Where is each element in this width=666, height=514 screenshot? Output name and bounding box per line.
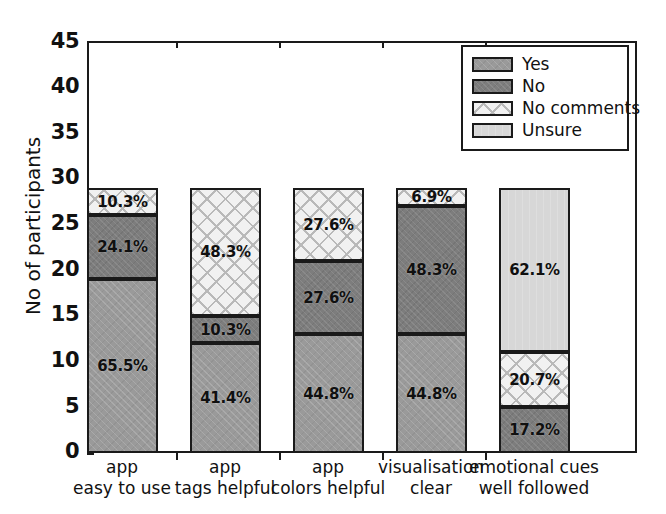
y-tick-label: 25 <box>0 213 79 234</box>
segment-value-label: 10.3% <box>200 321 251 339</box>
bar-segment-yes: 65.5% <box>87 279 158 453</box>
segment-value-label: 27.6% <box>303 216 354 234</box>
bar-segment-yes: 44.8% <box>396 334 467 453</box>
x-tick-mark-top <box>279 41 281 48</box>
x-label-line-1: emotional cues <box>469 457 599 477</box>
x-label-line-1: app <box>312 457 344 477</box>
x-axis-category-label: emotional cues well followed <box>459 457 609 498</box>
y-axis-tick-labels: 45 40 35 30 25 20 15 10 5 0 <box>0 0 87 514</box>
y-tick-label: 5 <box>0 396 79 417</box>
legend-item-yes: Yes <box>472 54 618 75</box>
bar-segment-yes: 44.8% <box>293 334 364 453</box>
bar-segment-no: 48.3% <box>396 206 467 334</box>
legend-swatch-yes-icon <box>472 57 513 72</box>
legend-swatch-unsure-icon <box>472 123 513 138</box>
x-label-line-2: well followed <box>459 478 609 499</box>
segment-value-label: 48.3% <box>406 261 457 279</box>
legend-item-no: No <box>472 76 618 97</box>
bar-segment-no: 17.2% <box>499 407 570 453</box>
bar-segment-no-comments: 20.7% <box>499 352 570 407</box>
x-label-line-1: app <box>106 457 138 477</box>
bar-segment-no-comments: 48.3% <box>190 188 261 316</box>
y-tick-label: 10 <box>0 350 79 371</box>
y-tick-mark <box>87 453 94 455</box>
legend-item-no-comments: No comments <box>472 98 618 119</box>
segment-value-label: 10.3% <box>97 193 148 211</box>
bar-segment-no-comments: 27.6% <box>293 188 364 261</box>
segment-value-label: 62.1% <box>509 261 560 279</box>
x-label-line-1: app <box>209 457 241 477</box>
bar-segment-no: 27.6% <box>293 261 364 334</box>
segment-value-label: 41.4% <box>200 389 251 407</box>
bar-segment-no: 10.3% <box>190 316 261 343</box>
y-tick-label: 40 <box>0 76 79 97</box>
y-tick-label: 20 <box>0 259 79 280</box>
legend-swatch-no-comments-icon <box>472 101 513 116</box>
segment-value-label: 6.9% <box>411 188 451 206</box>
segment-value-label: 44.8% <box>303 385 354 403</box>
bar-segment-no-comments: 6.9% <box>396 188 467 206</box>
segment-value-label: 44.8% <box>406 385 457 403</box>
legend-swatch-no-icon <box>472 79 513 94</box>
chart-legend: Yes No No comments Unsure <box>461 45 629 151</box>
legend-label: No <box>522 78 545 95</box>
legend-label: No comments <box>522 100 640 117</box>
x-tick-mark-top <box>382 41 384 48</box>
y-tick-label: 15 <box>0 304 79 325</box>
y-tick-label: 35 <box>0 122 79 143</box>
bar-segment-no-comments: 10.3% <box>87 188 158 215</box>
y-tick-label: 30 <box>0 167 79 188</box>
bar-segment-unsure: 62.1% <box>499 188 570 352</box>
segment-value-label: 24.1% <box>97 238 148 256</box>
x-tick-mark-top <box>176 41 178 48</box>
bar-segment-yes: 41.4% <box>190 343 261 453</box>
bar-segment-no: 24.1% <box>87 215 158 279</box>
segment-value-label: 48.3% <box>200 243 251 261</box>
legend-label: Yes <box>522 56 549 73</box>
legend-item-unsure: Unsure <box>472 120 618 141</box>
stacked-bar-chart: No of participants 45 40 35 30 25 20 15 … <box>0 0 666 514</box>
y-tick-label: 45 <box>0 31 79 52</box>
legend-label: Unsure <box>522 122 582 139</box>
segment-value-label: 27.6% <box>303 289 354 307</box>
segment-value-label: 20.7% <box>509 371 560 389</box>
segment-value-label: 65.5% <box>97 357 148 375</box>
segment-value-label: 17.2% <box>509 421 560 439</box>
